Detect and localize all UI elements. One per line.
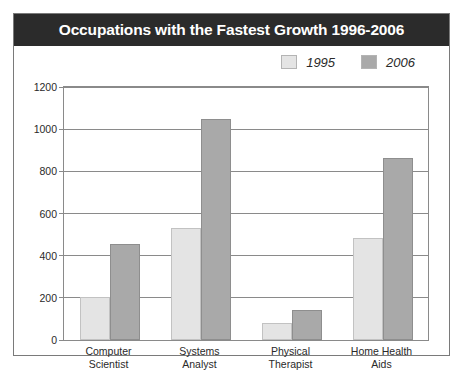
legend-label-2006: 2006 xyxy=(386,55,415,70)
x-axis-label-line: Therapist xyxy=(245,358,336,371)
legend-swatch-1995 xyxy=(281,55,297,69)
y-tick-label: 400 xyxy=(39,250,57,262)
legend-item-2006: 2006 xyxy=(361,55,415,70)
chart-frame: Occupations with the Fastest Growth 1996… xyxy=(13,13,450,356)
legend-swatch-2006 xyxy=(361,55,377,69)
y-tick-mark xyxy=(59,255,63,256)
x-axis-label-line: Home Health xyxy=(336,345,427,358)
y-tick-mark xyxy=(59,171,63,172)
y-tick-label: 1200 xyxy=(34,81,57,93)
x-axis-label-line: Physical xyxy=(245,345,336,358)
x-axis-label: SystemsAnalyst xyxy=(154,345,245,370)
bar xyxy=(353,238,383,340)
bar xyxy=(383,158,413,340)
legend-item-1995: 1995 xyxy=(281,55,335,70)
x-axis-label-line: Analyst xyxy=(154,358,245,371)
bar xyxy=(171,228,201,340)
bar xyxy=(80,297,110,340)
x-axis-label: PhysicalTherapist xyxy=(245,345,336,370)
x-axis-label-line: Aids xyxy=(336,358,427,371)
x-axis-labels: ComputerScientistSystemsAnalystPhysicalT… xyxy=(63,345,429,385)
bar xyxy=(201,119,231,340)
bar xyxy=(262,323,292,340)
x-axis-label-line: Computer xyxy=(63,345,154,358)
page-title: Occupations with the Fastest Growth 1996… xyxy=(59,21,405,39)
y-tick-label: 600 xyxy=(39,208,57,220)
chart-legend: 1995 2006 xyxy=(14,50,449,74)
y-tick-label: 0 xyxy=(51,334,57,346)
chart-title-bar: Occupations with the Fastest Growth 1996… xyxy=(14,14,449,46)
y-tick-label: 800 xyxy=(39,165,57,177)
x-axis-label-line: Systems xyxy=(154,345,245,358)
x-axis-label-line: Scientist xyxy=(63,358,154,371)
y-tick-label: 200 xyxy=(39,292,57,304)
legend-label-1995: 1995 xyxy=(306,55,335,70)
y-tick-mark xyxy=(59,340,63,341)
y-tick-mark xyxy=(59,129,63,130)
bars-layer xyxy=(64,87,428,340)
y-tick-mark xyxy=(59,297,63,298)
x-axis-label: Home HealthAids xyxy=(336,345,427,370)
y-tick-mark xyxy=(59,87,63,88)
plot-area: 020040060080010001200 xyxy=(63,86,429,341)
bar xyxy=(110,244,140,340)
bar xyxy=(292,310,322,340)
y-tick-mark xyxy=(59,213,63,214)
x-axis-label: ComputerScientist xyxy=(63,345,154,370)
y-tick-label: 1000 xyxy=(34,123,57,135)
